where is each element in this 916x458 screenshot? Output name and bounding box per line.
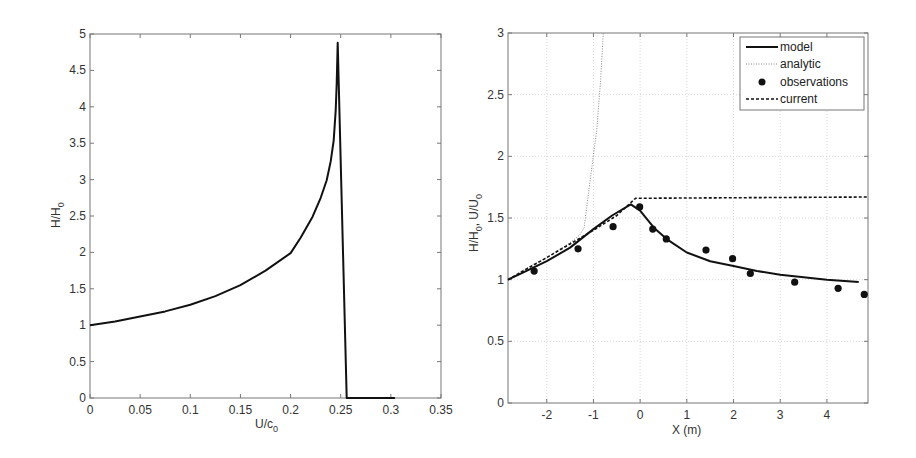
observation-point <box>574 245 581 252</box>
observation-point <box>663 235 670 242</box>
x-tick-label: 0 <box>637 408 644 422</box>
x-tick-label: 0.25 <box>329 403 353 417</box>
observation-point <box>702 246 709 253</box>
x-tick-label: 0.2 <box>282 403 299 417</box>
legend-current-label: current <box>780 92 818 106</box>
x-tick-label: 0.05 <box>128 403 152 417</box>
observation-point <box>835 285 842 292</box>
x-tick-label: 0.3 <box>383 403 400 417</box>
x-tick-label: 4 <box>824 408 831 422</box>
x-tick-label: -1 <box>588 408 599 422</box>
y-tick-label: 0.5 <box>487 334 504 348</box>
x-tick-label: 0.15 <box>229 403 253 417</box>
left-chart: 00.050.10.150.20.250.30.35 00.511.522.53… <box>49 27 453 434</box>
legend-model-label: model <box>780 40 813 54</box>
y-tick-label: 0 <box>497 396 504 410</box>
y-tick-label: 4 <box>79 100 86 114</box>
y-tick-label: 1.5 <box>69 282 86 296</box>
observation-point <box>636 203 643 210</box>
observation-point <box>649 226 656 233</box>
y-tick-label: 3 <box>497 26 504 40</box>
right-y-axis-label: H/H0, U/U0 <box>467 194 484 252</box>
legend-observations-label: observations <box>780 75 848 89</box>
x-tick-label: 0 <box>87 403 94 417</box>
y-tick-label: 2.5 <box>487 88 504 102</box>
observation-point <box>791 279 798 286</box>
observation-point <box>729 255 736 262</box>
y-tick-label: 2 <box>79 245 86 259</box>
y-tick-label: 3.5 <box>69 136 86 150</box>
observation-point <box>609 223 616 230</box>
left-y-axis-label: H/H0 <box>49 202 66 228</box>
y-tick-label: 4.5 <box>69 63 86 77</box>
y-tick-label: 3 <box>79 173 86 187</box>
x-tick-label: -2 <box>541 408 552 422</box>
y-tick-label: 0.5 <box>69 355 86 369</box>
x-tick-label: 1 <box>683 408 690 422</box>
y-tick-label: 5 <box>79 27 86 41</box>
y-tick-label: 1.5 <box>487 211 504 225</box>
left-plot-area <box>90 34 441 398</box>
x-tick-label: 0.35 <box>429 403 453 417</box>
legend: model analytic observations current <box>740 37 864 110</box>
x-tick-label: 2 <box>730 408 737 422</box>
y-tick-label: 1 <box>497 273 504 287</box>
x-tick-label: 3 <box>777 408 784 422</box>
observation-point <box>861 291 868 298</box>
observation-point <box>747 270 754 277</box>
x-tick-label: 0.1 <box>182 403 199 417</box>
y-tick-label: 2 <box>497 149 504 163</box>
legend-observations-marker <box>759 79 766 86</box>
figure: 00.050.10.150.20.250.30.35 00.511.522.53… <box>0 0 916 458</box>
left-x-axis-label: U/c0 <box>255 417 278 434</box>
right-x-axis-label: X (m) <box>672 423 701 437</box>
observation-point <box>531 267 538 274</box>
legend-analytic-label: analytic <box>780 57 821 71</box>
right-chart: -2-101234 00.511.522.53 X (m) H/H0, U/U0… <box>467 26 868 437</box>
y-tick-label: 0 <box>79 391 86 405</box>
y-tick-label: 1 <box>79 318 86 332</box>
y-tick-label: 2.5 <box>69 209 86 223</box>
